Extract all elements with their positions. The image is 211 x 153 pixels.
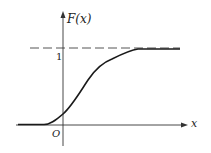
x-axis-arrow-icon — [181, 123, 188, 128]
cdf-curve — [18, 49, 180, 125]
origin-label: O — [52, 129, 60, 139]
cdf-plot — [0, 0, 211, 153]
y-axis-label: F(x) — [67, 13, 91, 25]
x-axis-label: x — [191, 118, 197, 129]
cdf-figure: F(x) 1 O x — [0, 0, 211, 153]
y-axis-arrow-icon — [61, 11, 66, 18]
tick-label-one: 1 — [56, 52, 62, 62]
